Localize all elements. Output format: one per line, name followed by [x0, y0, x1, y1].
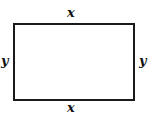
label-top: x: [67, 6, 75, 19]
label-right: y: [139, 54, 147, 67]
label-left: y: [1, 54, 9, 67]
label-bottom: x: [67, 101, 75, 114]
rectangle: [13, 23, 135, 101]
